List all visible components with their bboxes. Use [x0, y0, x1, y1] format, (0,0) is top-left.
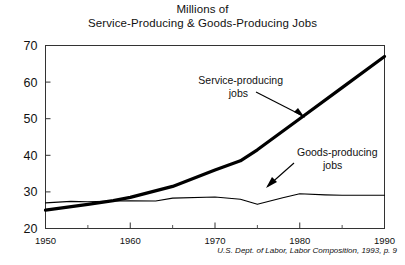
y-tick-label: 30 [24, 185, 38, 199]
annotation-goods-label-line-1: Goods-producing [297, 146, 378, 158]
source-note: U.S. Dept. of Labor, Labor Composition, … [217, 246, 397, 255]
y-tick-label: 60 [24, 76, 38, 90]
x-axis-tick-labels: 19501960197019801990 [35, 235, 395, 246]
x-tick-label: 1970 [204, 235, 225, 246]
x-tick-label: 1950 [35, 235, 56, 246]
x-tick-label: 1990 [374, 235, 395, 246]
y-tick-label: 40 [24, 149, 38, 163]
chart-plot: 203040506070 19501960197019801990 Servic… [0, 0, 405, 265]
x-tick-label: 1980 [289, 235, 310, 246]
x-tick-label: 1960 [120, 235, 141, 246]
annotation-goods-label-line-2: jobs [322, 159, 342, 171]
y-axis-tick-labels: 203040506070 [24, 39, 38, 236]
chart-page: Millions of Service-Producing & Goods-Pr… [0, 0, 405, 265]
annotation-service-label-line-1: Service-producing [198, 74, 283, 86]
y-tick-label: 50 [24, 112, 38, 126]
annotation-service-label-line-2: jobs [228, 87, 248, 99]
y-tick-label: 70 [24, 39, 38, 53]
